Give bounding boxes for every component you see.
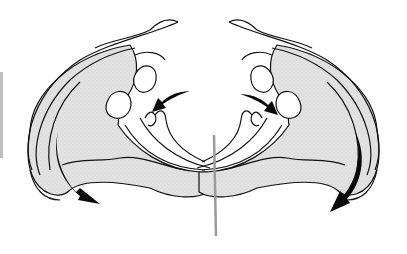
pelvis-diagram [0, 0, 407, 254]
left-hemipelvis [28, 20, 210, 200]
midline-rod [214, 135, 216, 236]
arrow-right-inner-icon [240, 94, 278, 115]
arrow-left-inner-icon [152, 91, 190, 112]
right-hemipelvis [197, 20, 379, 200]
